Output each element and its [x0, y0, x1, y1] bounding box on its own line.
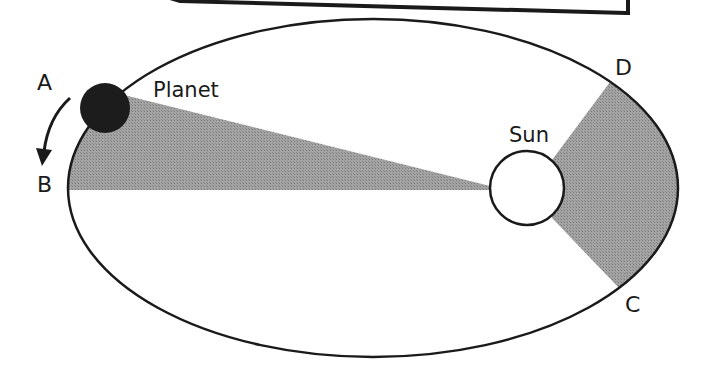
label-point-a: A	[37, 70, 52, 95]
label-point-b: B	[37, 172, 52, 197]
label-sun: Sun	[509, 123, 549, 147]
sun-icon	[490, 151, 564, 225]
label-point-c: C	[625, 292, 640, 317]
label-point-d: D	[615, 55, 632, 80]
curved-arrow-icon	[36, 98, 70, 166]
label-planet: Planet	[153, 78, 219, 102]
top-frame-box	[170, 0, 628, 13]
planet-icon	[80, 83, 130, 133]
kepler-orbit-diagram: A B Planet Sun D C	[0, 0, 709, 379]
